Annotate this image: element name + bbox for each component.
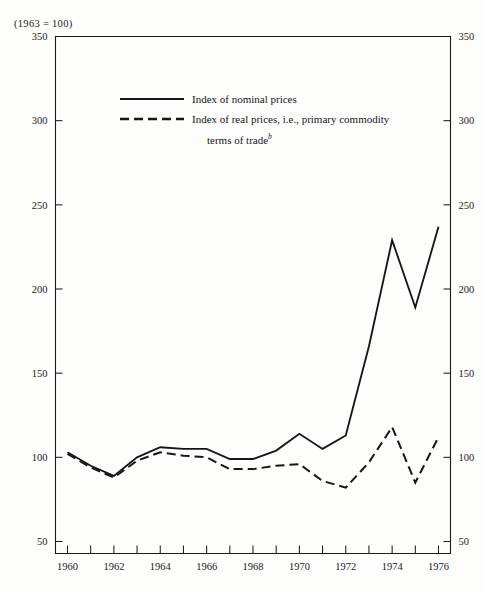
x-tick-label: 1976 bbox=[428, 561, 449, 572]
y-tick-label-right: 100 bbox=[459, 452, 475, 463]
data-series-group bbox=[68, 227, 439, 488]
x-tick-label: 1962 bbox=[103, 561, 124, 572]
y-tick-label-left: 200 bbox=[32, 284, 48, 295]
x-tick-label: 1968 bbox=[243, 561, 264, 572]
x-tick-label: 1960 bbox=[57, 561, 78, 572]
y-tick-label-left: 100 bbox=[32, 452, 48, 463]
legend-label-nominal: Index of nominal prices bbox=[192, 92, 297, 108]
legend-label-real-continued: terms of tradeb bbox=[207, 132, 272, 149]
legend-footnote-marker: b bbox=[268, 132, 272, 141]
series-line-nominal-prices bbox=[68, 227, 439, 476]
x-tick-label: 1974 bbox=[382, 561, 404, 572]
chart-page: (1963 = 100) 505010010015015020020025025… bbox=[0, 0, 484, 591]
y-tick-label-right: 50 bbox=[459, 536, 470, 547]
y-tick-label-left: 250 bbox=[32, 200, 48, 211]
y-tick-label-left: 300 bbox=[32, 115, 48, 126]
y-tick-label-right: 300 bbox=[459, 115, 475, 126]
y-tick-label-right: 150 bbox=[459, 368, 475, 379]
series-line-real-prices bbox=[68, 427, 439, 488]
y-tick-label-left: 150 bbox=[32, 368, 48, 379]
x-tick-label: 1970 bbox=[289, 561, 310, 572]
chart-plot: 5050100100150150200200250250300300350350… bbox=[0, 0, 484, 591]
legend-label-real: Index of real prices, i.e., primary comm… bbox=[192, 112, 389, 128]
legend-swatches bbox=[120, 99, 184, 119]
y-tick-label-left: 50 bbox=[37, 536, 48, 547]
y-tick-label-right: 250 bbox=[459, 200, 475, 211]
x-tick-label: 1966 bbox=[196, 561, 217, 572]
y-tick-label-right: 200 bbox=[459, 284, 475, 295]
y-tick-label-left: 350 bbox=[32, 31, 48, 42]
x-tick-label: 1964 bbox=[150, 561, 172, 572]
legend-label-real-text: terms of trade bbox=[207, 134, 268, 146]
x-tick-label: 1972 bbox=[335, 561, 356, 572]
y-tick-label-right: 350 bbox=[459, 31, 475, 42]
